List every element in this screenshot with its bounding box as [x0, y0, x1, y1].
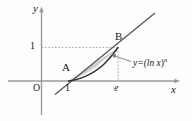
- math-figure: y x O 1 1 e A B y=(ln x)n: [0, 0, 192, 121]
- annotation-leader-line: [114, 56, 132, 62]
- x-tick-label-1: 1: [65, 83, 70, 93]
- shaded-region: [69, 48, 119, 82]
- x-tick-label-e: e: [114, 83, 118, 93]
- point-label-b: B: [115, 31, 122, 42]
- equation-exponent: n: [164, 56, 167, 63]
- origin-label: O: [33, 83, 40, 93]
- x-axis-label: x: [171, 84, 176, 95]
- curve-equation-label: y=(ln x)n: [133, 57, 167, 69]
- y-axis-label: y: [33, 3, 38, 14]
- point-label-a: A: [62, 62, 70, 73]
- line-y-equals-x: [55, 13, 155, 95]
- equation-prefix: y=(ln: [133, 58, 157, 68]
- y-tick-label-1: 1: [30, 41, 35, 51]
- y-axis-arrow-icon: [39, 7, 44, 13]
